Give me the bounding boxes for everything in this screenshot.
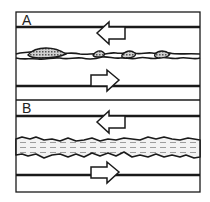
- gouge-patch: [155, 51, 170, 58]
- panel-a-label: A: [22, 12, 32, 28]
- gouge-patch: [28, 48, 66, 58]
- arrow-left-icon: [97, 22, 125, 44]
- panel-b: B: [16, 100, 200, 183]
- gouge-patch: [93, 51, 104, 57]
- fault-diagram: A B: [0, 0, 210, 202]
- panel-b-label: B: [22, 100, 31, 116]
- arrow-left-icon: [97, 111, 125, 133]
- gouge-patch: [122, 51, 136, 58]
- fault-zone: [16, 137, 200, 158]
- arrow-right-icon: [91, 70, 119, 91]
- panel-a: A: [16, 12, 200, 91]
- arrow-right-icon: [91, 162, 119, 183]
